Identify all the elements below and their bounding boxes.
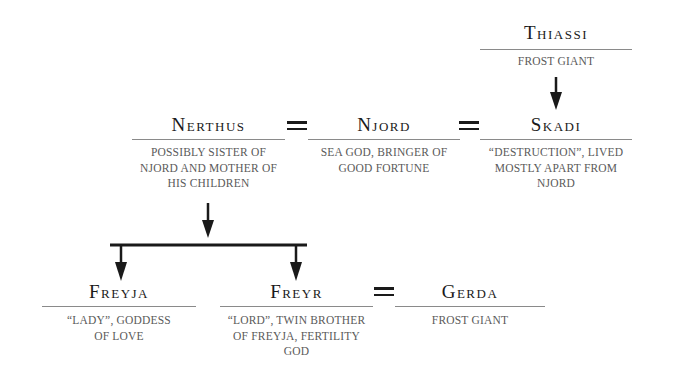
marriage-symbol bbox=[459, 121, 479, 130]
node-freyja: Freyja “Lady”, goddess of love bbox=[42, 276, 196, 336]
arrow-nerthus-to-children bbox=[202, 203, 214, 238]
name-rule bbox=[480, 139, 632, 140]
node-name: Freyr bbox=[220, 282, 373, 302]
name-rule bbox=[132, 139, 285, 140]
name-rule bbox=[308, 139, 460, 140]
node-gerda: Gerda Frost giant bbox=[395, 276, 545, 336]
node-name: Skadi bbox=[480, 115, 632, 135]
node-njord: Njord Sea god, bringer of good fortune bbox=[308, 110, 460, 180]
node-description: “Lady”, goddess of love bbox=[64, 313, 174, 344]
node-nerthus: Nerthus Possibly sister of Njord and mot… bbox=[132, 110, 285, 200]
node-thiassi: Thiassi Frost giant bbox=[480, 20, 632, 70]
node-description: Frost giant bbox=[389, 313, 551, 329]
node-description: Possibly sister of Njord and mother of h… bbox=[136, 145, 281, 192]
name-rule bbox=[42, 306, 196, 307]
node-description: Sea god, bringer of good fortune bbox=[314, 145, 454, 176]
node-name: Thiassi bbox=[480, 23, 632, 43]
node-name: Gerda bbox=[395, 282, 545, 302]
node-description: “Destruction”, lived mostly apart from N… bbox=[484, 145, 628, 192]
marriage-symbol bbox=[287, 121, 307, 130]
arrow-thiassi-to-skadi bbox=[550, 77, 562, 110]
node-name: Nerthus bbox=[132, 115, 285, 135]
node-skadi: Skadi “Destruction”, lived mostly apart … bbox=[480, 110, 632, 200]
node-description: “Lord”, twin brother of Freyja, fertilit… bbox=[222, 313, 371, 360]
node-description: Frost giant bbox=[474, 54, 638, 70]
name-rule bbox=[220, 306, 373, 307]
name-rule bbox=[395, 306, 545, 307]
node-name: Njord bbox=[308, 115, 460, 135]
node-name: Freyja bbox=[42, 282, 196, 302]
name-rule bbox=[480, 49, 632, 50]
node-freyr: Freyr “Lord”, twin brother of Freyja, fe… bbox=[220, 276, 373, 366]
marriage-symbol bbox=[374, 287, 394, 296]
